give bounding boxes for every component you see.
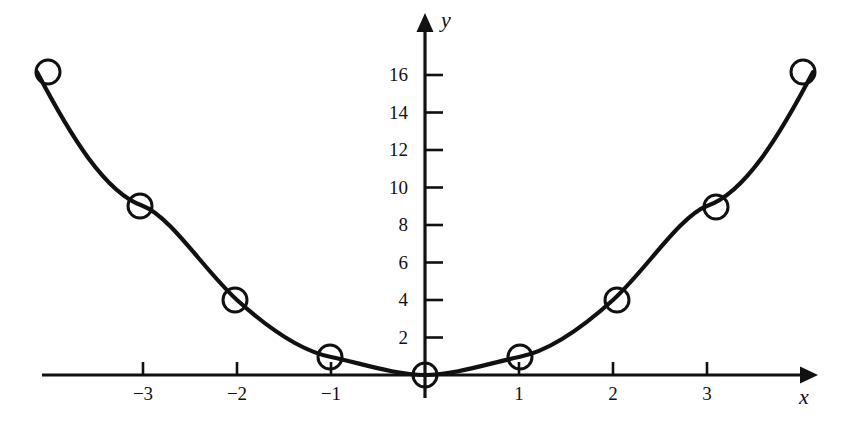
y-axis-label: y <box>441 7 451 33</box>
y-tick-label-8: 8 <box>372 214 408 236</box>
y-tick-label-4: 4 <box>372 289 408 311</box>
data-point-neg4-16 <box>36 60 60 84</box>
parabola-figure: 16 14 12 10 8 6 4 2 −3 −2 −1 1 2 3 y x <box>0 0 847 433</box>
y-tick-label-16: 16 <box>372 64 408 86</box>
x-tick-label-1: 1 <box>489 383 549 405</box>
data-point-2-4 <box>605 288 629 312</box>
y-axis-ticks <box>425 75 443 338</box>
x-tick-label-2: 2 <box>583 383 643 405</box>
x-tick-label-neg2: −2 <box>207 383 267 405</box>
x-axis-arrow-icon <box>800 367 818 384</box>
y-tick-label-10: 10 <box>372 177 408 199</box>
y-axis <box>417 13 434 398</box>
y-tick-label-6: 6 <box>372 252 408 274</box>
x-axis-label: x <box>799 384 809 410</box>
x-tick-label-neg3: −3 <box>113 383 173 405</box>
chart-svg <box>0 0 847 433</box>
y-tick-label-12: 12 <box>372 139 408 161</box>
x-tick-label-neg1: −1 <box>301 383 361 405</box>
y-axis-arrow-icon <box>417 13 434 32</box>
x-tick-label-3: 3 <box>677 383 737 405</box>
y-tick-label-2: 2 <box>372 327 408 349</box>
y-tick-label-14: 14 <box>372 102 408 124</box>
